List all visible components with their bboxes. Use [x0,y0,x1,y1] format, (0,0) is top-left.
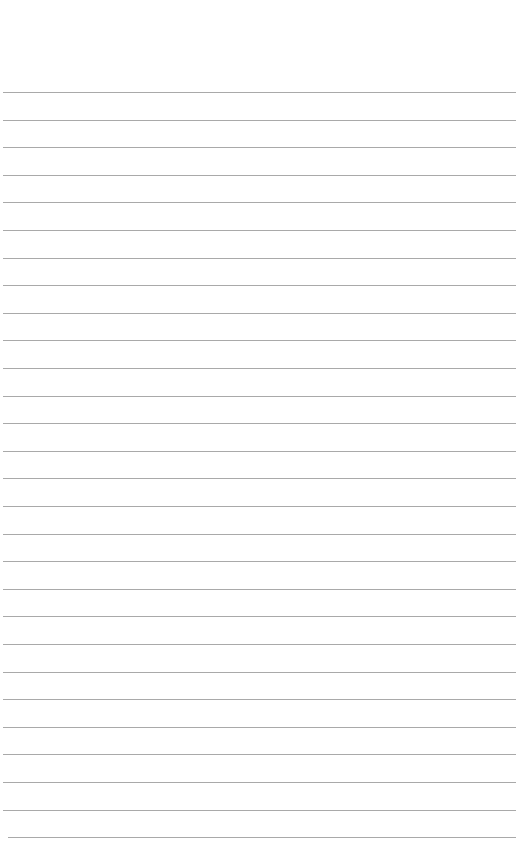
ruled-line [3,368,516,369]
ruled-line [3,396,516,397]
ruled-line [3,672,516,673]
ruled-line [3,92,516,93]
ruled-line [3,478,516,479]
ruled-line [3,754,516,755]
ruled-line [3,616,516,617]
ruled-line [3,506,516,507]
ruled-line [3,313,516,314]
ruled-line [3,451,516,452]
ruled-line [3,534,516,535]
ruled-line [3,230,516,231]
ruled-line [3,644,516,645]
ruled-line [3,699,516,700]
ruled-line [3,147,516,148]
ruled-line [3,782,516,783]
ruled-line [3,561,516,562]
ruled-line [3,175,516,176]
ruled-line [3,589,516,590]
ruled-line [3,258,516,259]
ruled-line [3,810,516,811]
ruled-line [3,120,516,121]
ruled-line [3,727,516,728]
lined-paper-sheet [0,0,518,867]
ruled-line [3,285,516,286]
ruled-line [3,202,516,203]
ruled-line [8,837,516,838]
ruled-line [3,340,516,341]
ruled-line [3,423,516,424]
